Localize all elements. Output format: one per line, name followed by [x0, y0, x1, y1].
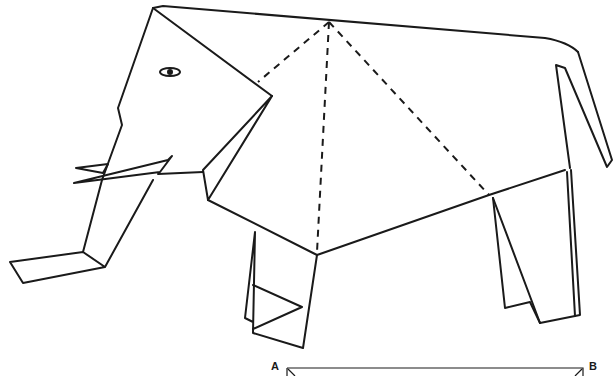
- label-a: A: [271, 360, 279, 372]
- tail: [556, 52, 612, 168]
- jaw-line: [158, 172, 203, 174]
- label-b: B: [589, 360, 597, 372]
- dashed-fold-left: [258, 22, 329, 82]
- head-top-edge: [153, 8, 272, 96]
- pupil: [168, 70, 172, 74]
- rear-leg: [493, 170, 580, 323]
- ear-fold: [203, 96, 272, 200]
- rear-leg-edge: [567, 172, 575, 316]
- trunk: [10, 180, 153, 283]
- tusk-upper: [76, 164, 108, 173]
- origami-elephant-diagram: [0, 0, 613, 376]
- back-line: [153, 6, 578, 52]
- dashed-fold-right: [329, 22, 489, 195]
- ear-bottom: [208, 200, 317, 255]
- front-leg-fold: [253, 285, 302, 329]
- dashed-fold-center: [317, 22, 329, 252]
- strip-corner-a: [288, 369, 295, 376]
- head-left-edge: [83, 8, 153, 252]
- strip-corner-b: [575, 369, 582, 376]
- belly-line: [317, 170, 565, 255]
- paper-strip-ab: [287, 368, 583, 376]
